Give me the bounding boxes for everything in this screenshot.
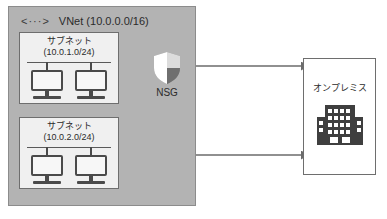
monitor-base [77, 181, 105, 184]
monitor-riser [90, 62, 92, 70]
subnet-2-cidr: (10.0.2.0/24) [20, 132, 118, 143]
monitor-icon [30, 147, 64, 187]
monitor-screen [75, 70, 107, 91]
vnet-container: <···> VNet (10.0.0.0/16) サブネット (10.0.1.0… [8, 6, 196, 206]
monitor-icon [74, 147, 108, 187]
diagram-canvas: <···> VNet (10.0.0.0/16) サブネット (10.0.1.0… [0, 0, 387, 219]
subnet-1-hosts [20, 62, 118, 102]
subnet-2-hosts [20, 147, 118, 187]
monitor-riser [46, 147, 48, 155]
monitor-base [33, 96, 61, 99]
onpremises-label: オンプレミス [304, 83, 375, 94]
nsg-group: NSG [145, 51, 189, 99]
subnet-box-1: サブネット (10.0.1.0/24) [19, 32, 119, 104]
monitor-icon [30, 62, 64, 102]
vnet-header: <···> VNet (10.0.0.0/16) [21, 16, 149, 27]
shield-icon [152, 51, 182, 85]
monitor-riser [46, 62, 48, 70]
monitor-screen [31, 155, 63, 176]
subnet-2-label: サブネット (10.0.2.0/24) [20, 121, 118, 143]
subnet-1-label: サブネット (10.0.1.0/24) [20, 36, 118, 58]
onpremises-icon-wrap [304, 103, 375, 147]
monitor-base [33, 181, 61, 184]
subnet-2-name: サブネット [47, 121, 92, 131]
monitor-riser [90, 147, 92, 155]
subnet-1-cidr: (10.0.1.0/24) [20, 47, 118, 58]
nsg-label: NSG [145, 87, 189, 99]
monitor-screen [31, 70, 63, 91]
monitor-screen [75, 155, 107, 176]
subnet-box-2: サブネット (10.0.2.0/24) [19, 117, 119, 189]
vnet-code-icon: <···> [21, 16, 50, 27]
subnet-1-name: サブネット [47, 36, 92, 46]
monitor-icon [74, 62, 108, 102]
office-building-icon [317, 103, 363, 147]
vnet-title: VNet (10.0.0.0/16) [59, 16, 149, 27]
onpremises-container: オンプレミス [303, 58, 376, 175]
monitor-base [77, 96, 105, 99]
